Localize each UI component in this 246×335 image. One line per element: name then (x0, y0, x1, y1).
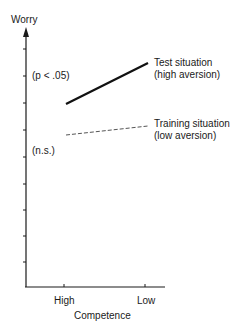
y-axis-label: Worry (11, 14, 37, 26)
test-significance-label: (p < .05) (32, 70, 70, 82)
training-label-line1: Training situation (154, 118, 230, 130)
x-axis-label: Competence (74, 310, 131, 322)
test-situation-label: Test situation (high aversion) (154, 57, 220, 81)
x-tick-low: Low (137, 295, 155, 307)
test-label-line2: (high aversion) (154, 69, 220, 81)
chart-canvas (0, 0, 246, 335)
x-tick-high: High (54, 295, 75, 307)
training-situation-line (66, 126, 148, 135)
test-label-line1: Test situation (154, 57, 220, 69)
training-label-line2: (low aversion) (154, 130, 230, 142)
training-situation-label: Training situation (low aversion) (154, 118, 230, 142)
y-axis-arrow-icon (23, 27, 29, 37)
training-significance-label: (n.s.) (32, 145, 55, 157)
test-situation-line (66, 63, 148, 104)
